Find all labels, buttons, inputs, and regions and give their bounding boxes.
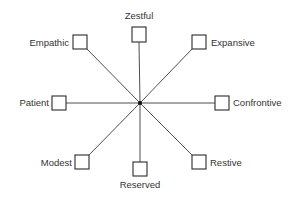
label-expansive: Expansive (211, 37, 255, 48)
spoke-restive (140, 103, 193, 156)
checkbox-empathic[interactable] (73, 35, 87, 49)
checkbox-restive[interactable] (192, 155, 206, 169)
label-reserved: Reserved (120, 179, 161, 190)
spoke-expansive (140, 48, 193, 103)
label-empathic: Empathic (29, 37, 69, 48)
checkbox-reserved[interactable] (133, 162, 147, 176)
label-zestful: Zestful (125, 10, 154, 21)
checkbox-zestful[interactable] (132, 27, 146, 42)
center-hub (138, 101, 142, 105)
checkbox-patient[interactable] (52, 96, 66, 110)
spoke-empathic (86, 48, 140, 103)
spoke-zestful (139, 42, 140, 103)
label-confrontive: Confrontive (233, 97, 282, 108)
star-diagram: Zestful Expansive Confrontive Restive Re… (0, 0, 295, 199)
label-restive: Restive (210, 157, 242, 168)
spoke-modest (88, 103, 140, 156)
checkbox-confrontive[interactable] (215, 96, 229, 110)
checkbox-modest[interactable] (75, 155, 89, 169)
checkbox-expansive[interactable] (192, 35, 206, 49)
label-modest: Modest (41, 157, 73, 168)
label-patient: Patient (19, 97, 49, 108)
